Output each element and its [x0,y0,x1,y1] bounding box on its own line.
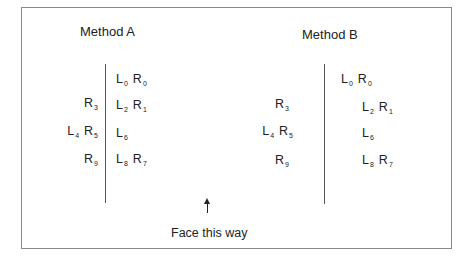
method-b-right-row-4: L8R7 [362,153,393,168]
method-b-divider [324,64,325,204]
subscripted-label: L2 [116,98,128,113]
subscripted-label: R9 [84,152,98,167]
subscripted-label: R1 [133,98,147,113]
method-a-divider [105,64,106,203]
method-b-left-row-4: R9 [275,153,289,168]
subscripted-label: L6 [116,126,128,141]
subscripted-label: R1 [379,100,393,115]
subscripted-label: L0 [116,72,128,87]
subscripted-label: R3 [84,96,98,111]
method-a-left-row-4: R9 [84,152,98,167]
subscripted-label: R7 [379,153,393,168]
method-b-right-row-1: L0R0 [341,72,372,87]
subscripted-label: L2 [362,100,374,115]
subscripted-label: R7 [133,152,147,167]
method-a-right-row-2: L2R1 [116,98,147,113]
method-a-right-row-1: L0R0 [116,72,147,87]
subscripted-label: L4 [67,124,79,139]
method-b-right-row-2: L2R1 [362,100,393,115]
subscripted-label: L4 [262,124,274,139]
subscripted-label: R3 [275,97,289,112]
method-a-left-row-2: R3 [84,96,98,111]
subscripted-label: L0 [341,72,353,87]
subscripted-label: R5 [84,124,98,139]
subscripted-label: R0 [133,72,147,87]
subscripted-label: L6 [362,126,374,141]
method-b-left-row-2: R3 [275,97,289,112]
method-a-title: Method A [80,24,135,39]
arrow-up-shaft [207,200,208,213]
subscripted-label: R5 [279,124,293,139]
subscripted-label: R9 [275,153,289,168]
subscripted-label: L8 [116,152,128,167]
direction-label: Face this way [171,226,247,240]
method-a-right-row-4: L8R7 [116,152,147,167]
method-a-right-row-3: L6 [116,126,128,141]
method-b-right-row-3: L6 [362,126,374,141]
method-b-left-row-3: L4R5 [262,124,293,139]
method-b-title: Method B [302,27,358,42]
subscripted-label: L8 [362,153,374,168]
method-a-left-row-3: L4R5 [67,124,98,139]
subscripted-label: R0 [358,72,372,87]
